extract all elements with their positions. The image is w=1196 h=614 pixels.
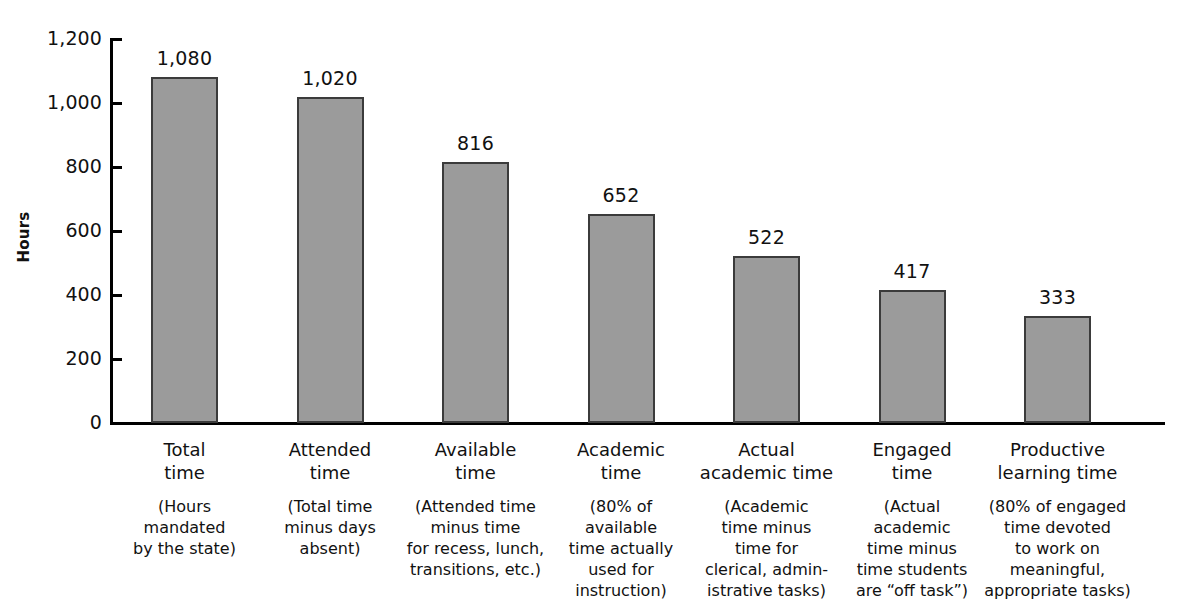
category-label-block: Available time(Attended time minus time … bbox=[394, 438, 558, 580]
category-label-block: Productive learning time(80% of engaged … bbox=[976, 438, 1140, 601]
bar bbox=[879, 290, 946, 423]
category-title: Productive learning time bbox=[976, 438, 1140, 484]
bar bbox=[442, 162, 509, 423]
category-title: Engaged time bbox=[830, 438, 994, 484]
bar bbox=[588, 214, 655, 423]
y-tick-label: 400 bbox=[2, 285, 102, 304]
y-tick-label: 1,200 bbox=[2, 29, 102, 48]
bar-value-label: 1,080 bbox=[125, 49, 245, 68]
category-label-block: Total time(Hours mandated by the state) bbox=[103, 438, 267, 559]
y-tick-label: 1,000 bbox=[2, 93, 102, 112]
category-title: Academic time bbox=[539, 438, 703, 484]
y-tick-label: 200 bbox=[2, 349, 102, 368]
bar bbox=[1024, 316, 1091, 423]
y-axis-line bbox=[110, 38, 113, 425]
category-title: Actual academic time bbox=[685, 438, 849, 484]
category-description: (Academic time minus time for clerical, … bbox=[685, 496, 849, 601]
bar-value-label: 333 bbox=[998, 288, 1118, 307]
category-label-block: Attended time(Total time minus days abse… bbox=[248, 438, 412, 559]
category-label-block: Academic time(80% of available time actu… bbox=[539, 438, 703, 601]
bar-chart: Hours 1,2001,0008006004002000 1,0801,020… bbox=[0, 0, 1196, 614]
bar bbox=[151, 77, 218, 423]
bar bbox=[733, 256, 800, 423]
y-axis-tick-labels: 1,2001,0008006004002000 bbox=[0, 0, 102, 614]
category-description: (Hours mandated by the state) bbox=[103, 496, 267, 559]
category-description: (Actual academic time minus time student… bbox=[830, 496, 994, 601]
bar-value-label: 816 bbox=[416, 134, 536, 153]
bar-value-label: 1,020 bbox=[270, 69, 390, 88]
category-label-block: Engaged time(Actual academic time minus … bbox=[830, 438, 994, 601]
bar bbox=[297, 97, 364, 423]
category-description: (Total time minus days absent) bbox=[248, 496, 412, 559]
category-description: (80% of engaged time devoted to work on … bbox=[976, 496, 1140, 601]
bar-value-label: 652 bbox=[561, 186, 681, 205]
y-tick-label: 600 bbox=[2, 221, 102, 240]
category-title: Total time bbox=[103, 438, 267, 484]
bar-value-label: 417 bbox=[852, 262, 972, 281]
category-description: (Attended time minus time for recess, lu… bbox=[394, 496, 558, 580]
category-label-block: Actual academic time(Academic time minus… bbox=[685, 438, 849, 601]
category-description: (80% of available time actually used for… bbox=[539, 496, 703, 601]
y-tick-label: 800 bbox=[2, 157, 102, 176]
category-title: Attended time bbox=[248, 438, 412, 484]
category-title: Available time bbox=[394, 438, 558, 484]
y-tick-label: 0 bbox=[2, 413, 102, 432]
bar-value-label: 522 bbox=[707, 228, 827, 247]
